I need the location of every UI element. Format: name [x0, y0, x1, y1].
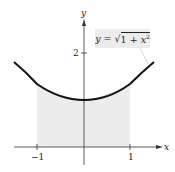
eq-inside: 1 + — [121, 34, 141, 45]
x-axis-arrow-icon — [156, 145, 163, 149]
annotation-pointer — [140, 48, 148, 64]
radicand: 1 + x2 — [121, 32, 150, 45]
eq-exp: 2 — [146, 33, 150, 40]
x-tick-label-neg1: −1 — [31, 153, 44, 162]
x-tick-label-1: 1 — [128, 153, 134, 162]
eq-equals: = — [101, 33, 115, 44]
y-axis-label: y — [81, 9, 86, 18]
plot-canvas — [0, 0, 175, 172]
y-axis-arrow-icon — [82, 19, 86, 26]
equation-label: y = √ 1 + x2 — [95, 29, 150, 48]
x-axis-label: x — [164, 143, 169, 152]
y-tick-label-2: 2 — [73, 49, 79, 58]
